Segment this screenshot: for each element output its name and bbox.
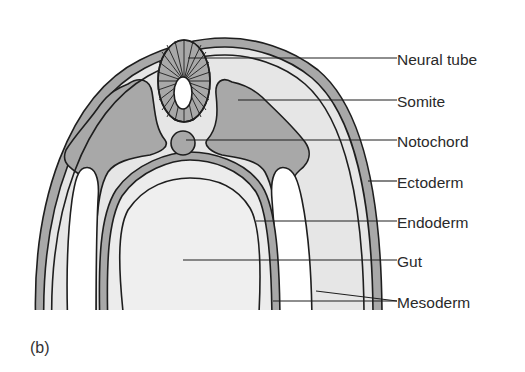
neural-canal (174, 77, 192, 109)
label-gut: Gut (397, 254, 422, 270)
gut-lumen (120, 178, 260, 330)
label-endoderm: Endoderm (397, 215, 469, 231)
notochord (171, 131, 195, 155)
label-somite: Somite (397, 94, 445, 110)
label-notochord: Notochord (397, 134, 469, 150)
panel-label: (b) (30, 339, 50, 357)
label-neural-tube: Neural tube (397, 52, 477, 68)
embryo-cross-section-figure: Neural tube Somite Notochord Ectoderm En… (0, 0, 525, 372)
label-ectoderm: Ectoderm (397, 175, 463, 191)
label-mesoderm: Mesoderm (397, 295, 470, 311)
